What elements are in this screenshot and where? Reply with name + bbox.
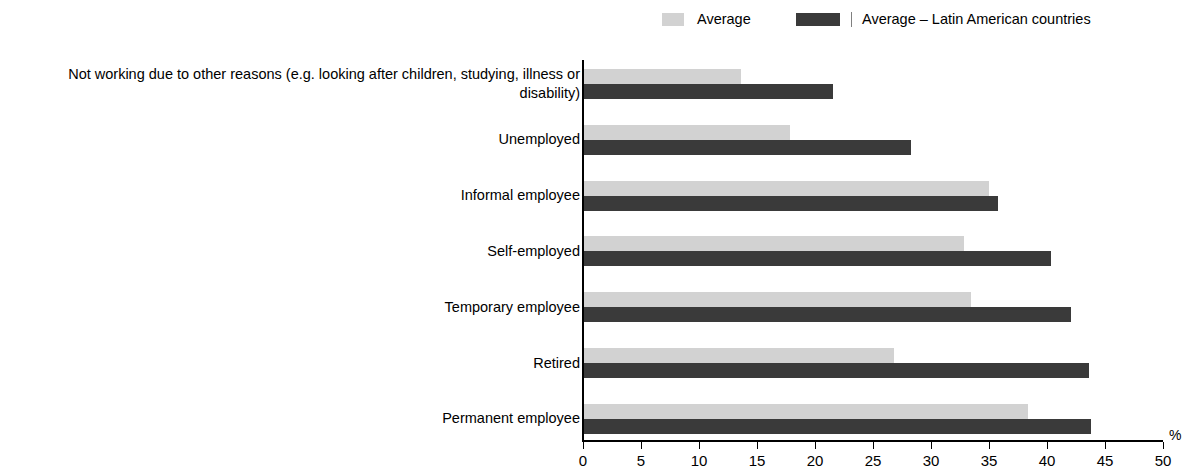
bar-average-latin-american-countries	[584, 196, 998, 211]
category-label: Informal employee	[5, 186, 580, 205]
x-axis-tick	[989, 442, 990, 449]
x-axis-tick-label: 10	[679, 452, 719, 470]
bar-average	[584, 292, 971, 307]
bar-average-latin-american-countries	[584, 84, 833, 99]
x-axis-tick	[1163, 442, 1164, 449]
x-axis-tick	[583, 442, 584, 449]
bar-average-latin-american-countries	[584, 307, 1071, 322]
x-axis-tick-label: 45	[1085, 452, 1125, 470]
category-label: Retired	[5, 354, 580, 373]
x-axis-tick-label: 0	[563, 452, 603, 470]
x-axis-tick-label: 25	[853, 452, 893, 470]
bar-average	[584, 69, 741, 84]
bar-average-latin-american-countries	[584, 363, 1089, 378]
bar-average-latin-american-countries	[584, 140, 911, 155]
bar-average	[584, 348, 894, 363]
x-axis-tick-label: 35	[969, 452, 1009, 470]
bar-average	[584, 236, 964, 251]
bar-average	[584, 404, 1028, 419]
x-axis-tick	[641, 442, 642, 449]
x-axis-tick	[1047, 442, 1048, 449]
x-axis-tick-label: 20	[795, 452, 835, 470]
x-axis-tick	[757, 442, 758, 449]
category-label: Permanent employee	[5, 409, 580, 428]
x-axis-tick-label: 50	[1143, 452, 1183, 470]
x-axis-tick-label: 30	[911, 452, 951, 470]
x-axis-tick-label: 5	[621, 452, 661, 470]
bar-average	[584, 181, 989, 196]
x-axis-tick	[931, 442, 932, 449]
x-axis-tick-label: 40	[1027, 452, 1067, 470]
x-axis-tick-label: 15	[737, 452, 777, 470]
x-axis-tick	[699, 442, 700, 449]
bar-average-latin-american-countries	[584, 419, 1091, 434]
x-axis-unit-label: %	[1169, 427, 1181, 443]
category-label: Temporary employee	[5, 298, 580, 317]
x-axis-tick	[1105, 442, 1106, 449]
x-axis-tick	[873, 442, 874, 449]
bar-chart-plot-area: % 05101520253035404550 Not working due t…	[0, 0, 1187, 476]
x-axis-tick	[815, 442, 816, 449]
category-label: Not working due to other reasons (e.g. l…	[5, 65, 580, 103]
category-label: Unemployed	[5, 130, 580, 149]
category-label: Self-employed	[5, 242, 580, 261]
bar-average-latin-american-countries	[584, 251, 1051, 266]
bar-average	[584, 125, 790, 140]
